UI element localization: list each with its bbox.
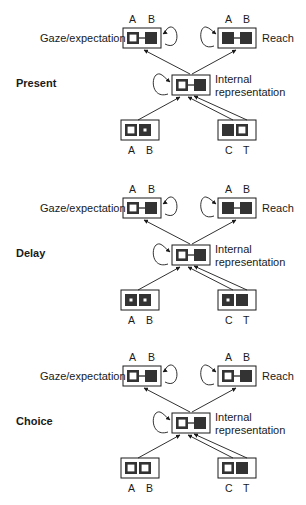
- connection-arrow: [192, 388, 236, 412]
- connection-arrow: [194, 266, 247, 290]
- connection-arrow: [194, 434, 247, 458]
- recurrent-loop-arrow: [201, 365, 216, 385]
- input-label-t: T: [243, 144, 249, 156]
- unit-label-a: A: [225, 183, 232, 195]
- connection-arrow: [144, 220, 190, 244]
- internal-label-line2: representation: [215, 256, 285, 268]
- connection-arrow: [192, 220, 236, 244]
- connection-arrow: [192, 50, 236, 74]
- unit-label-b: B: [148, 13, 155, 25]
- phase-label: Delay: [16, 247, 45, 259]
- recurrent-loop-arrow: [153, 244, 170, 265]
- unit-label-a: A: [225, 351, 232, 363]
- recurrent-loop-arrow: [163, 27, 177, 46]
- input-label-t: T: [243, 482, 249, 494]
- gaze-expectation-label: Gaze/expectation: [40, 202, 126, 214]
- internal-label-line1: Internal: [215, 411, 252, 423]
- input-label-c: C: [225, 482, 233, 494]
- panel-choice: ChoiceGaze/expectationABReachABInternalr…: [0, 338, 306, 505]
- phase-label: Choice: [16, 415, 53, 427]
- unit-label-b: B: [243, 13, 250, 25]
- reach-label: Reach: [262, 370, 294, 382]
- gaze-expectation-label: Gaze/expectation: [40, 370, 126, 382]
- input-label-b: B: [146, 482, 153, 494]
- connection-arrow: [138, 97, 180, 120]
- connection-arrow: [188, 267, 233, 290]
- reach-label: Reach: [262, 202, 294, 214]
- recurrent-loop-arrow: [153, 74, 170, 95]
- internal-label-line2: representation: [215, 86, 285, 98]
- input-label-c: C: [225, 144, 233, 156]
- input-label-a: A: [128, 144, 135, 156]
- unit-label-a: A: [129, 183, 136, 195]
- internal-label-line1: Internal: [215, 73, 252, 85]
- input-label-b: B: [146, 144, 153, 156]
- gaze-expectation-label: Gaze/expectation: [40, 32, 126, 44]
- unit-label-b: B: [243, 351, 250, 363]
- connection-arrow: [138, 435, 180, 458]
- internal-label-line1: Internal: [215, 243, 252, 255]
- unit-label-a: A: [129, 351, 136, 363]
- unit-label-b: B: [148, 351, 155, 363]
- input-label-a: A: [128, 482, 135, 494]
- recurrent-loop-arrow: [201, 197, 216, 217]
- input-label-c: C: [225, 314, 233, 326]
- connection-arrow: [188, 97, 233, 120]
- panel-present: PresentGaze/expectationABReachABInternal…: [0, 0, 306, 168]
- recurrent-loop-arrow: [163, 365, 177, 384]
- recurrent-loop-arrow: [201, 27, 216, 47]
- connection-arrow: [144, 388, 190, 412]
- unit-label-a: A: [225, 13, 232, 25]
- recurrent-loop-arrow: [163, 197, 177, 216]
- unit-label-b: B: [148, 183, 155, 195]
- connection-arrow: [138, 267, 180, 290]
- recurrent-loop-arrow: [153, 412, 170, 433]
- connection-arrow: [188, 435, 233, 458]
- panel-delay: DelayGaze/expectationABReachABInternalre…: [0, 170, 306, 338]
- unit-label-b: B: [243, 183, 250, 195]
- input-label-a: A: [128, 314, 135, 326]
- phase-label: Present: [16, 77, 56, 89]
- internal-label-line2: representation: [215, 424, 285, 436]
- connection-arrow: [194, 96, 247, 120]
- unit-label-a: A: [129, 13, 136, 25]
- input-label-b: B: [146, 314, 153, 326]
- connection-arrow: [144, 50, 190, 74]
- input-label-t: T: [243, 314, 249, 326]
- reach-label: Reach: [262, 32, 294, 44]
